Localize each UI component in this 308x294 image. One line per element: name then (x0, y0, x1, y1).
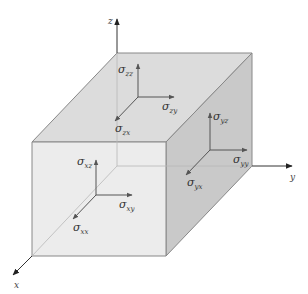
x-axis (13, 256, 32, 275)
front-face (32, 142, 166, 256)
x-axis-label: x (14, 280, 19, 290)
z-axis-label: z (107, 16, 113, 26)
y-axis-label: y (289, 172, 296, 182)
stress-cube-diagram: z y x σzz σzy σzx σyz σyy σyx σxz σxy (0, 0, 308, 294)
